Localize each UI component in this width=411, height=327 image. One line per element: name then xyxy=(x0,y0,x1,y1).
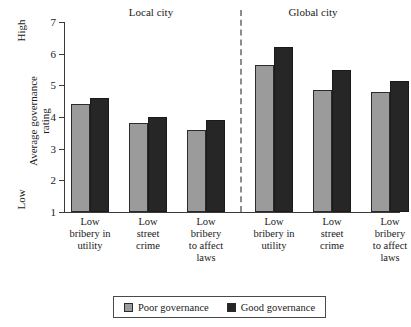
bar-good-group-5 xyxy=(332,70,351,213)
bar-good-group-1 xyxy=(90,98,109,212)
y-tick-2 xyxy=(59,180,64,181)
chart-legend: Poor governance Good governance xyxy=(113,296,326,318)
y-tick-4 xyxy=(59,117,64,118)
bar-poor-group-2 xyxy=(129,123,148,212)
y-tick-label-7: 7 xyxy=(40,17,56,28)
y-tick-label-4: 4 xyxy=(40,112,56,123)
bar-good-group-2 xyxy=(148,117,167,212)
legend-item-poor-governance: Poor governance xyxy=(124,302,209,313)
bar-poor-group-4 xyxy=(255,65,274,212)
plot-area: 1234567 xyxy=(64,22,400,212)
bar-poor-group-6 xyxy=(371,92,390,212)
y-axis-line xyxy=(64,22,65,212)
y-tick-label-2: 2 xyxy=(40,175,56,186)
y-tick-label-3: 3 xyxy=(40,144,56,155)
governance-rating-bar-chart: Local city Global city Average governanc… xyxy=(0,0,411,327)
x-category-label-6: Low bribery to affect laws xyxy=(350,216,411,264)
bar-good-group-6 xyxy=(390,81,409,212)
legend-swatch-good-icon xyxy=(227,303,236,312)
bar-poor-group-3 xyxy=(187,130,206,212)
panel-title-global-city: Global city xyxy=(258,6,368,18)
y-tick-3 xyxy=(59,149,64,150)
y-tick-1 xyxy=(59,212,64,213)
bar-poor-group-1 xyxy=(71,104,90,212)
panel-divider-dashed-line xyxy=(240,10,242,212)
y-tick-label-6: 6 xyxy=(40,49,56,60)
y-tick-5 xyxy=(59,85,64,86)
bar-good-group-3 xyxy=(206,120,225,212)
x-axis-line xyxy=(64,212,400,213)
y-axis-high-label: High xyxy=(15,14,28,48)
y-tick-6 xyxy=(59,54,64,55)
legend-label-good-governance: Good governance xyxy=(241,302,315,313)
legend-swatch-poor-icon xyxy=(124,303,133,312)
y-tick-label-5: 5 xyxy=(40,80,56,91)
y-tick-7 xyxy=(59,22,64,23)
legend-item-good-governance: Good governance xyxy=(227,302,315,313)
bar-good-group-4 xyxy=(274,47,293,212)
legend-label-poor-governance: Poor governance xyxy=(138,302,209,313)
bar-poor-group-5 xyxy=(313,90,332,212)
y-axis-low-label: Low xyxy=(15,183,28,217)
panel-title-local-city: Local city xyxy=(96,6,206,18)
